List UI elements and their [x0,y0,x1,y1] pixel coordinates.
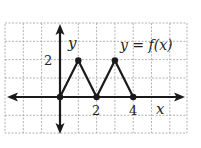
function-graph [0,0,201,148]
x-tick-label-2: 2 [92,104,100,117]
point-1-2 [75,57,81,63]
x-axis-label: x [156,102,164,117]
point-0-0 [57,94,63,100]
point-4-0 [130,94,136,100]
point-3-2 [112,57,118,63]
x-tick-label-4: 4 [129,104,137,117]
function-equation-label: y = f(x) [120,38,173,52]
y-axis-label: y [68,36,76,51]
y-tick-label-2: 2 [44,54,52,67]
point-2-0 [93,94,99,100]
